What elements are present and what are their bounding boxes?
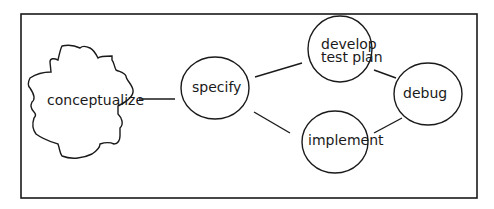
process-diagram: conceptualize specify develop test plan … xyxy=(0,0,494,209)
specify-label: specify xyxy=(192,79,241,95)
edge-implement-debug xyxy=(374,118,402,133)
test-plan-label: test plan xyxy=(321,49,383,65)
edge-specify-implement xyxy=(254,112,290,133)
conceptualize-label: conceptualize xyxy=(47,92,144,108)
edge-develop-debug xyxy=(374,70,396,78)
edge-specify-develop xyxy=(255,63,302,77)
debug-label: debug xyxy=(403,85,447,101)
implement-label: implement xyxy=(308,132,384,148)
